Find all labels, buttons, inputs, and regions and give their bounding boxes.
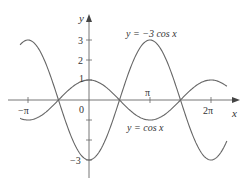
x-tick-label-pi: π xyxy=(145,87,150,98)
origin-label: 0 xyxy=(79,104,84,115)
y-tick-label-3: 3 xyxy=(78,35,83,46)
curve-label-cos-x: y = cos x xyxy=(126,122,164,133)
y-axis-arrow-icon xyxy=(86,14,92,22)
x-tick-label-neg-pi: −π xyxy=(18,105,29,116)
cosine-graph: y x 0 −π π 2π 3 2 1 −3 y = −3 cos x y = … xyxy=(0,0,251,188)
y-tick-label-1: 1 xyxy=(79,73,84,84)
x-axis-label: x xyxy=(231,107,237,119)
curve-label-neg-3-cos-x: y = −3 cos x xyxy=(125,28,177,39)
axes xyxy=(8,20,234,178)
y-tick-label-2: 2 xyxy=(78,55,83,66)
x-axis-arrow-icon xyxy=(232,97,240,103)
y-axis-label: y xyxy=(78,12,84,24)
y-tick-label-neg3: −3 xyxy=(70,155,81,166)
x-tick-label-2pi: 2π xyxy=(203,105,213,116)
